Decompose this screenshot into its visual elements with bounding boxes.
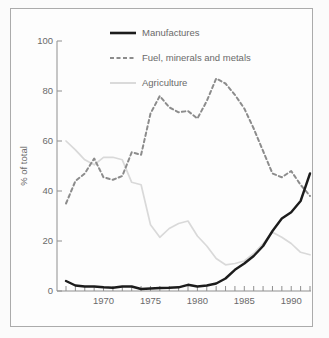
x-tick-label: 1990: [281, 295, 302, 306]
y-axis-title: % of total: [18, 146, 29, 186]
y-tick-label: 0: [48, 285, 53, 296]
x-tick-label: 1975: [140, 295, 161, 306]
series-line-fuel-minerals-and-metals: [66, 79, 310, 204]
series-line-manufactures: [66, 174, 310, 290]
legend-label: Fuel, minerals and metals: [142, 52, 251, 63]
figure-frame: 02040608010019701975198019851990% of tot…: [10, 8, 313, 327]
figure-page: 02040608010019701975198019851990% of tot…: [0, 0, 329, 338]
y-tick-label: 20: [42, 235, 53, 246]
x-tick-label: 1970: [93, 295, 114, 306]
x-tick-label: 1980: [187, 295, 208, 306]
y-tick-label: 60: [42, 135, 53, 146]
y-tick-label: 80: [42, 85, 53, 96]
y-tick-label: 100: [37, 35, 53, 46]
legend-label: Agriculture: [142, 77, 187, 88]
x-tick-label: 1985: [234, 295, 255, 306]
line-chart: 02040608010019701975198019851990% of tot…: [11, 9, 312, 326]
legend-label: Manufactures: [142, 27, 200, 38]
y-tick-label: 40: [42, 185, 53, 196]
series-line-agriculture: [66, 141, 310, 265]
